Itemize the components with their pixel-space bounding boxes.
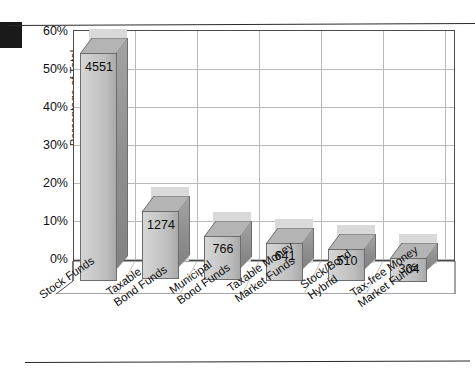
- bar-value-label: 1274: [144, 218, 178, 232]
- gridline-horizontal-50: [74, 69, 454, 70]
- y-tick-label-40: 40%: [28, 100, 68, 114]
- y-tick-label-30: 30%: [28, 138, 68, 152]
- gridline-horizontal-30: [74, 145, 454, 146]
- gridline-vertical-6: [445, 31, 446, 260]
- chart-figure: Percentage of Total 60% 50% 40% 30% 20% …: [0, 0, 475, 377]
- gridline-horizontal-40: [74, 107, 454, 108]
- y-tick-label-10: 10%: [28, 214, 68, 228]
- gridline-vertical-4: [321, 31, 322, 260]
- bar-right-face: [116, 38, 128, 270]
- gridline-horizontal-10: [74, 221, 454, 222]
- bottom-rule-divider: [25, 361, 470, 363]
- bar-front-face: [80, 53, 117, 281]
- plot-area: [73, 30, 455, 261]
- y-tick-label-20: 20%: [28, 176, 68, 190]
- gridline-horizontal-20: [74, 183, 454, 184]
- bar-stock-funds: 4551: [80, 38, 128, 281]
- gridline-vertical-3: [259, 31, 260, 260]
- gridline-vertical-5: [383, 31, 384, 260]
- y-tick-label-50: 50%: [28, 62, 68, 76]
- y-tick-label-60: 60%: [28, 24, 68, 38]
- bar-value-label: 4551: [82, 60, 116, 74]
- gridline-vertical-1: [135, 31, 136, 260]
- y-tick-label-0: 0%: [28, 252, 68, 266]
- gridline-vertical-2: [197, 31, 198, 260]
